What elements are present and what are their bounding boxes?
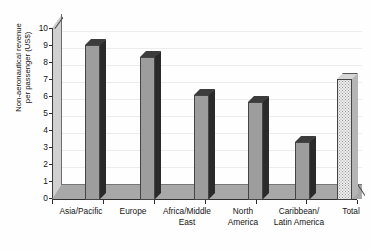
y-tick-mark-4: [49, 130, 52, 131]
bar-side-face: [100, 39, 106, 196]
x-tick-mark: [52, 200, 53, 204]
y-tick-mark-8: [49, 62, 52, 63]
bar-front-face: [194, 95, 209, 197]
y-tick-label-0: 0: [32, 194, 48, 202]
gridline: [61, 82, 362, 83]
y-tick-mark-2: [49, 164, 52, 165]
plot-left-wall-back-edge: [61, 14, 62, 185]
y-tick-mark-5: [49, 113, 52, 114]
x-axis-label-asia-pacific: Asia/Pacific: [52, 206, 110, 217]
x-axis-label-north-america: North America: [219, 206, 267, 227]
x-axis-label-africa-middle-east: Africa/Middle East: [156, 206, 218, 227]
bar-front-face: [337, 184, 352, 200]
plot-left-wall-top-edge: [52, 14, 63, 29]
bar-front-face: [194, 184, 209, 200]
y-tick-label-5: 5: [32, 109, 48, 117]
bar-front-face: [248, 102, 263, 197]
y-tick-label-7: 7: [32, 75, 48, 83]
y-tick-label-2: 2: [32, 160, 48, 168]
gridline: [61, 31, 362, 32]
y-tick-mark-3: [49, 147, 52, 148]
y-tick-mark-1: [49, 181, 52, 182]
bar-front-face: [295, 184, 310, 200]
y-tick-mark-9: [49, 45, 52, 46]
y-tick-mark-10: [49, 28, 52, 29]
x-tick-mark: [357, 200, 358, 204]
gridline: [61, 65, 362, 66]
y-tick-label-10: 10: [32, 24, 48, 32]
bar-side-face: [352, 73, 358, 196]
y-tick-label-6: 6: [32, 92, 48, 100]
bar-front-face: [140, 184, 155, 200]
x-axis-label-europe: Europe: [110, 206, 156, 217]
y-tick-label-3: 3: [32, 143, 48, 151]
bar-front-face: [140, 57, 155, 197]
y-tick-label-9: 9: [32, 41, 48, 49]
y-tick-mark-6: [49, 96, 52, 97]
bar-front-face: [85, 45, 100, 197]
y-axis-line: [52, 28, 53, 199]
gridline: [61, 48, 362, 49]
x-tick-mark: [103, 200, 104, 204]
x-tick-mark: [154, 200, 155, 204]
y-tick-label-1: 1: [32, 177, 48, 185]
x-tick-mark: [256, 200, 257, 204]
x-tick-mark: [306, 200, 307, 204]
y-tick-label-4: 4: [32, 126, 48, 134]
bar-chart: Non-aeronautical revenue per passenger (…: [0, 0, 371, 250]
bar-front-face: [337, 79, 352, 197]
x-axis-label-caribbean-latin-america: Caribbean/ Latin America: [265, 206, 333, 227]
bar-front-face: [85, 184, 100, 200]
x-tick-mark: [205, 200, 206, 204]
y-tick-label-8: 8: [32, 58, 48, 66]
y-tick-mark-7: [49, 79, 52, 80]
y-axis-title: Non-aeronautical revenue per passenger (…: [14, 0, 33, 152]
bar-front-face: [248, 184, 263, 200]
bar-side-face: [155, 51, 161, 196]
x-axis-label-total: Total: [333, 206, 369, 217]
